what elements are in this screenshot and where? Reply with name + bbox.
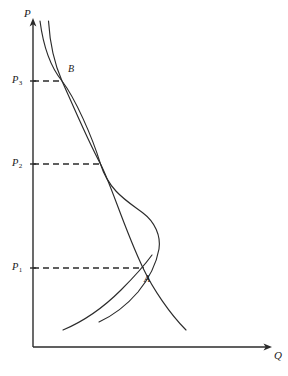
price-label-p2: P2 (12, 158, 22, 170)
point-label-a: A (144, 274, 150, 284)
price-label-p3: P3 (12, 75, 22, 87)
quantity-axis-label: Q (274, 350, 282, 361)
price-label-p2-subscript: 2 (18, 162, 22, 170)
price-axis (30, 18, 37, 347)
figure-canvas (0, 0, 288, 376)
price-label-p3-subscript: 3 (18, 79, 22, 87)
point-label-b: B (68, 64, 74, 74)
supply-curve (40, 21, 159, 322)
quantity-axis (33, 344, 272, 351)
supply-curve-lower-branch (63, 255, 152, 330)
price-label-p1-subscript: 1 (18, 266, 22, 274)
figure-caption (18, 369, 276, 376)
supply-demand-figure: P Q P3 P2 P1 B A (0, 0, 288, 376)
price-axis-label: P (24, 8, 31, 19)
price-label-p1: P1 (12, 262, 22, 274)
